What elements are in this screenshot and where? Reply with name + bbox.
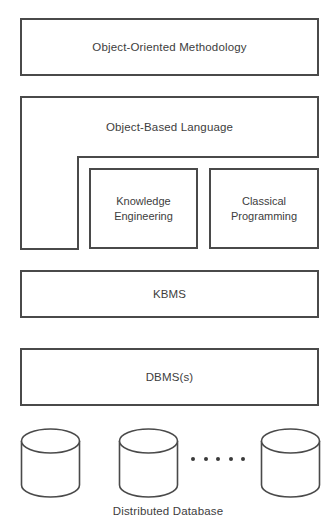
layered-architecture-diagram: Object-Oriented Methodology Object-Based… bbox=[0, 0, 336, 530]
inner-box-classical-programming-line1: Classical bbox=[211, 194, 317, 209]
ellipsis-dot bbox=[241, 457, 245, 461]
database-cylinder-2 bbox=[118, 428, 179, 498]
inner-box-knowledge-engineering-line2: Engineering bbox=[91, 209, 196, 224]
layer-label-object-based-language: Object-Based Language bbox=[20, 121, 319, 133]
layer-label-dbms: DBMS(s) bbox=[22, 371, 317, 383]
ellipsis-dot bbox=[191, 457, 195, 461]
caption-distributed-database: Distributed Database bbox=[0, 505, 336, 517]
inner-box-classical-programming: Classical Programming bbox=[209, 168, 319, 249]
inner-box-knowledge-engineering-label: Knowledge Engineering bbox=[91, 194, 196, 224]
database-cylinder-3 bbox=[260, 428, 321, 498]
inner-box-knowledge-engineering-line1: Knowledge bbox=[91, 194, 196, 209]
layer-label-object-oriented-methodology: Object-Oriented Methodology bbox=[22, 41, 317, 53]
inner-box-knowledge-engineering: Knowledge Engineering bbox=[89, 168, 198, 249]
ellipsis-dot bbox=[229, 457, 233, 461]
ellipsis-dots bbox=[191, 454, 245, 464]
layer-box-kbms: KBMS bbox=[20, 270, 319, 318]
database-cylinder-icon bbox=[20, 428, 81, 498]
inner-box-classical-programming-label: Classical Programming bbox=[211, 194, 317, 224]
layer-label-kbms: KBMS bbox=[22, 288, 317, 300]
layer-box-object-oriented-methodology: Object-Oriented Methodology bbox=[20, 18, 319, 76]
inner-box-classical-programming-line2: Programming bbox=[211, 209, 317, 224]
ellipsis-dot bbox=[216, 457, 220, 461]
ellipsis-dot bbox=[204, 457, 208, 461]
database-cylinder-1 bbox=[20, 428, 81, 498]
layer-box-dbms: DBMS(s) bbox=[20, 348, 319, 406]
database-cylinder-icon bbox=[260, 428, 321, 498]
database-cylinder-icon bbox=[118, 428, 179, 498]
